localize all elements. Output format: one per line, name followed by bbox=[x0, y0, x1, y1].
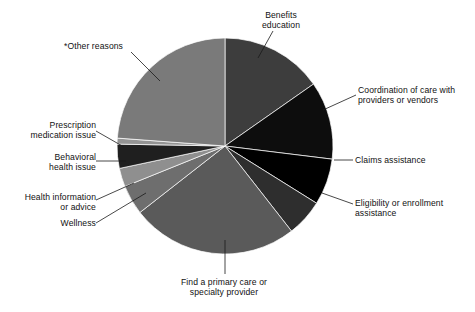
slice-label-health-information-or-advice: Health information or advice bbox=[8, 192, 96, 213]
slice-label-coordination-of-care: Coordination of care with providers or v… bbox=[358, 85, 455, 106]
pie-chart-figure: Benefits education Coordination of care … bbox=[0, 0, 475, 312]
leader-line-coordination bbox=[323, 95, 356, 110]
slice-label-other-reasons: *Other reasons bbox=[64, 41, 123, 51]
slice-label-claims-assistance: Claims assistance bbox=[355, 155, 426, 165]
leader-line-eligibility bbox=[322, 193, 353, 204]
slice-label-behavioral-health-issue: Behavioral health issue bbox=[8, 152, 96, 173]
slice-label-eligibility-or-enrollment-assistance: Eligibility or enrollment assistance bbox=[355, 198, 443, 219]
slice-label-benefits-education: Benefits education bbox=[262, 10, 300, 31]
slice-label-prescription-medication-issue: Prescription medication issue bbox=[8, 120, 96, 141]
slice-label-find-a-primary-care-or-specialty-provider: Find a primary care or specialty provide… bbox=[181, 277, 267, 298]
slice-label-wellness: Wellness bbox=[8, 218, 96, 228]
